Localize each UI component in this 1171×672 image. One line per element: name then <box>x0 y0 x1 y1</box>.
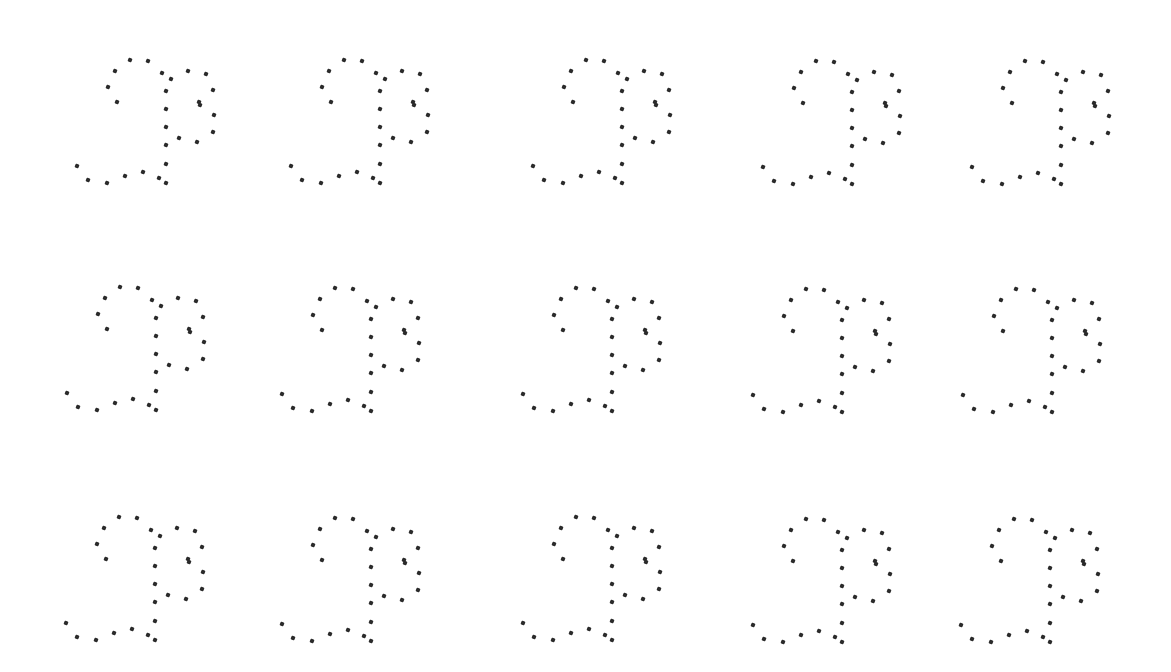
glyph-dot <box>368 352 373 357</box>
glyph-dot <box>1058 89 1063 94</box>
glyph-dot <box>152 545 157 550</box>
glyph-dot <box>1058 107 1063 112</box>
glyph-dot <box>653 102 658 107</box>
glyph-dot <box>609 563 614 568</box>
glyph-dot <box>193 298 198 303</box>
glyph-dot <box>781 543 786 548</box>
glyph-dot <box>368 638 373 643</box>
glyph-dot <box>601 58 606 63</box>
glyph-dot <box>317 296 322 301</box>
glyph-dot <box>605 298 610 303</box>
glyph-dot <box>163 161 168 166</box>
glyph-dot <box>318 180 323 185</box>
glyph-dot <box>1078 598 1083 603</box>
glyph-dot <box>520 391 525 396</box>
glyph-dot <box>816 628 821 633</box>
glyph-dot <box>880 140 885 145</box>
glyph-dot <box>290 635 295 640</box>
glyph-dot <box>862 136 867 141</box>
glyph-dot <box>622 592 627 597</box>
glyph-dot <box>153 369 158 374</box>
glyph-dot <box>399 597 404 602</box>
glyph-dot <box>969 164 974 169</box>
glyph-dot <box>332 285 337 290</box>
glyph-dot <box>870 368 875 373</box>
glyph-dot <box>1049 317 1054 322</box>
glyph-dot <box>145 632 150 637</box>
glyph-dot <box>368 389 373 394</box>
glyph-dot <box>364 298 369 303</box>
glyph-dot <box>156 175 161 180</box>
glyph-dot <box>183 596 188 601</box>
glyph-dot <box>377 124 382 129</box>
glyph-dot <box>135 285 140 290</box>
glyph-dot <box>780 639 785 644</box>
glyph-dot <box>1058 125 1063 130</box>
glyph-dot <box>1007 69 1012 74</box>
glyph-dot <box>159 70 164 75</box>
glyph-dot <box>210 129 215 134</box>
glyph-dot <box>1049 409 1054 414</box>
glyph-dot <box>886 588 891 593</box>
glyph-dot <box>1049 335 1054 340</box>
glyph-dot <box>1000 85 1005 90</box>
glyph-dot <box>153 333 158 338</box>
glyph-dot <box>368 334 373 339</box>
glyph-dot <box>656 315 661 320</box>
glyph-dot <box>94 541 99 546</box>
glyph-dot <box>370 175 375 180</box>
glyph-dot <box>408 139 413 144</box>
glyph-dot <box>1017 174 1022 179</box>
glyph-dot <box>657 340 662 345</box>
glyph-dot <box>980 178 985 183</box>
dotted-glyph-r3-c5 <box>0 0 150 130</box>
glyph-dot <box>130 396 135 401</box>
glyph-dot <box>568 68 573 73</box>
glyph-dot <box>781 313 786 318</box>
glyph-dot <box>520 620 525 625</box>
glyph-dot <box>1096 358 1101 363</box>
glyph-dot <box>960 392 965 397</box>
glyph-dot <box>184 366 189 371</box>
glyph-dot <box>149 297 154 302</box>
glyph-dot <box>104 326 109 331</box>
glyph-dot <box>64 390 69 395</box>
glyph-dot <box>203 71 208 76</box>
glyph-dot <box>958 622 963 627</box>
glyph-dot <box>1071 136 1076 141</box>
glyph-dot <box>368 370 373 375</box>
glyph-dot <box>800 100 805 105</box>
glyph-dot <box>1029 517 1034 522</box>
glyph-dot <box>399 367 404 372</box>
glyph-dot <box>415 545 420 550</box>
glyph-dot <box>816 398 821 403</box>
glyph-dot <box>377 142 382 147</box>
glyph-dot <box>667 112 672 117</box>
glyph-dot <box>560 180 565 185</box>
glyph-dot <box>153 315 158 320</box>
glyph-dot <box>771 178 776 183</box>
glyph-dot <box>1098 72 1103 77</box>
glyph-dot <box>839 639 844 644</box>
glyph-dot <box>408 299 413 304</box>
glyph-dot <box>849 162 854 167</box>
glyph-dot <box>609 581 614 586</box>
glyph-dot <box>656 586 661 591</box>
glyph-dot <box>1024 628 1029 633</box>
glyph-dot <box>605 527 610 532</box>
glyph-dot <box>849 89 854 94</box>
glyph-dot <box>163 88 168 93</box>
glyph-dot <box>85 177 90 182</box>
glyph-dot <box>879 530 884 535</box>
glyph-dot <box>583 57 588 62</box>
glyph-dot <box>336 173 341 178</box>
glyph-dot <box>619 106 624 111</box>
glyph-dot <box>364 528 369 533</box>
glyph-dot <box>326 68 331 73</box>
glyph-dot <box>117 284 122 289</box>
glyph-dot <box>299 177 304 182</box>
glyph-dot <box>153 407 158 412</box>
glyph-dot <box>761 406 766 411</box>
glyph-dot <box>631 296 636 301</box>
glyph-dot <box>788 297 793 302</box>
